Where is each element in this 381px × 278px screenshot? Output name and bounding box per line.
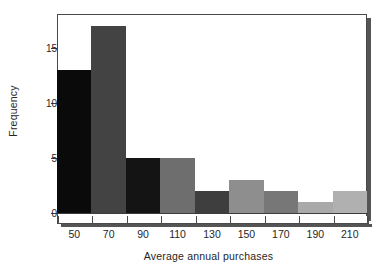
x-tick-label: 110 (161, 228, 195, 240)
x-tick-label: 210 (333, 228, 367, 240)
x-tick-label: 190 (298, 228, 332, 240)
x-tick-label: 50 (57, 228, 91, 240)
histogram-figure: Frequency 051015 50709011013015017019021… (0, 0, 381, 278)
x-tick-label: 90 (126, 228, 160, 240)
x-tick-label: 150 (229, 228, 263, 240)
x-tick-label: 130 (195, 228, 229, 240)
x-tick-label: 170 (264, 228, 298, 240)
x-axis-title: Average annual purchases (57, 250, 360, 262)
x-axis-tick-labels: 507090110130150170190210 (0, 0, 381, 278)
x-tick-label: 70 (92, 228, 126, 240)
